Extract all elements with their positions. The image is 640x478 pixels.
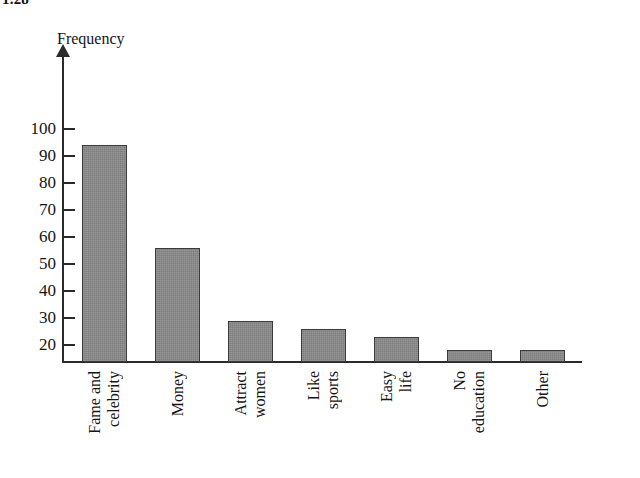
category-label-line: Like: [305, 371, 323, 400]
category-label: Noeducation: [440, 371, 500, 475]
y-tick-label-wrap: 20: [8, 336, 56, 353]
y-tick-label: 90: [16, 147, 56, 164]
bar: [447, 350, 492, 362]
category-label-line: No: [451, 371, 469, 391]
y-tick-mark: [64, 290, 75, 292]
bar-chart: Frequency 2030405060708090100 Fame andce…: [0, 0, 640, 478]
y-tick-mark: [64, 344, 75, 346]
y-tick-label-wrap: 60: [8, 228, 56, 245]
y-tick-mark: [64, 236, 75, 238]
y-tick-mark: [64, 317, 75, 319]
category-label-line: Money: [169, 371, 187, 416]
category-label: Likesports: [294, 371, 354, 475]
y-tick-mark: [64, 155, 75, 157]
category-label-line: celebrity: [105, 371, 123, 427]
category-label: Easylife: [367, 371, 427, 475]
y-tick-mark: [64, 128, 75, 130]
category-label-line: Attract: [232, 371, 250, 415]
y-tick-label-wrap: 90: [8, 147, 56, 164]
y-tick-label: 60: [16, 228, 56, 245]
bar: [82, 145, 127, 362]
bar: [155, 248, 200, 362]
y-tick-label-wrap: 40: [8, 282, 56, 299]
y-tick-label: 40: [16, 282, 56, 299]
category-label-line: Fame and: [86, 371, 104, 434]
category-label-line: life: [397, 371, 415, 392]
y-tick-label: 50: [16, 255, 56, 272]
y-tick-label: 100: [16, 120, 56, 137]
category-label-line: women: [251, 371, 269, 418]
bar: [228, 321, 273, 362]
category-label-line: education: [470, 371, 488, 433]
y-tick-label: 30: [16, 309, 56, 326]
y-tick-mark: [64, 182, 75, 184]
category-label-line: Other: [534, 371, 552, 407]
category-label: Other: [513, 371, 573, 475]
bar: [301, 329, 346, 362]
y-tick-label: 20: [16, 336, 56, 353]
y-tick-mark: [64, 209, 75, 211]
y-tick-mark: [64, 263, 75, 265]
bar: [520, 350, 565, 362]
y-tick-label-wrap: 100: [8, 120, 56, 137]
category-label: Money: [148, 371, 208, 475]
category-label: Attractwomen: [221, 371, 281, 475]
y-tick-label-wrap: 70: [8, 201, 56, 218]
category-label-line: sports: [324, 371, 342, 409]
bar: [374, 337, 419, 362]
category-label: Fame andcelebrity: [75, 371, 135, 475]
y-tick-label-wrap: 50: [8, 255, 56, 272]
y-tick-label: 80: [16, 174, 56, 191]
category-label-line: Easy: [378, 371, 396, 402]
y-tick-label: 70: [16, 201, 56, 218]
y-tick-label-wrap: 30: [8, 309, 56, 326]
y-tick-label-wrap: 80: [8, 174, 56, 191]
